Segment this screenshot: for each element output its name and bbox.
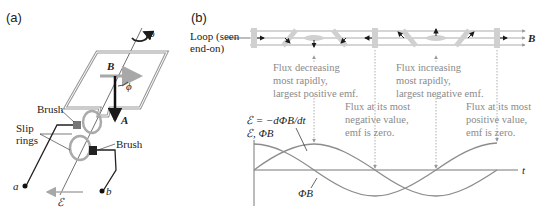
brush-top-label: Brush [37, 103, 63, 115]
brush-bottom-label: Brush [116, 138, 142, 150]
slip-rings-label-2: rings [16, 134, 38, 146]
emf-symbol-label: ℰ [57, 196, 64, 208]
strip-b-label: B [528, 32, 535, 44]
brush-bottom [89, 146, 97, 155]
terminal-b-label: b [106, 185, 112, 197]
loop-label-1: Loop (seen [190, 30, 239, 42]
annotation-most-positive: Flux at its mostpositive value,emf is ze… [466, 100, 531, 139]
loop-strip [226, 28, 525, 48]
b-vector-label: B [107, 60, 114, 72]
phi-angle-label: ϕ [126, 80, 132, 92]
annotation-decreasing: Flux decreasingmost rapidly,largest posi… [273, 61, 358, 100]
terminal-b [100, 189, 105, 194]
terminal-a [23, 184, 28, 189]
t-axis-label: t [522, 164, 525, 176]
panel-a-label: (a) [6, 10, 22, 25]
slip-ring-bottom [70, 136, 90, 160]
panel-b-label: (b) [191, 10, 207, 25]
loop-pos-5 [372, 28, 378, 48]
annotation-increasing: Flux increasingmost rapidly,largest nega… [396, 61, 484, 100]
emf-label-leader [296, 128, 307, 151]
terminal-a-label: a [13, 180, 19, 192]
loop-label-2: end-on) [190, 42, 224, 54]
brush-top [73, 121, 81, 129]
graph [254, 128, 518, 206]
omega-label: ω [147, 27, 155, 39]
loop-pos-9 [494, 28, 500, 48]
phi-curve-label: ΦB [298, 187, 313, 199]
loop-pos-1 [251, 28, 257, 48]
y-axis-label: ℰ, ΦB [246, 127, 274, 139]
slip-rings-label-1: Slip [16, 122, 34, 134]
a-vector-label: A [121, 114, 128, 126]
diagram-canvas [0, 0, 540, 212]
emf-equation-label: ℰ = −dΦB/dt [246, 114, 306, 126]
annotation-most-negative: Flux at its mostnegative value,emf is ze… [345, 100, 410, 139]
